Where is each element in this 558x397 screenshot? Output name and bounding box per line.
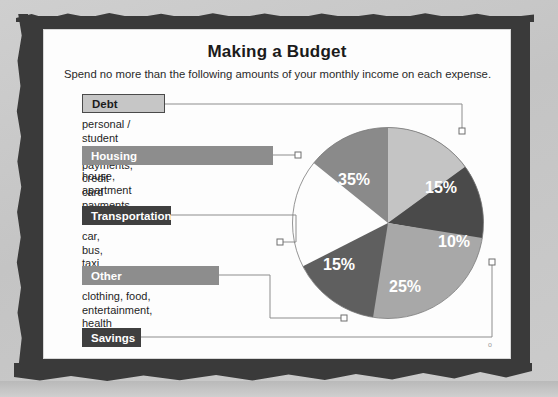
slice-label-other: 25% <box>389 278 421 295</box>
page-bottom-strip <box>0 381 558 397</box>
marker-savings <box>489 259 495 265</box>
slice-label-housing: 35% <box>338 171 370 188</box>
connector-debt <box>165 104 462 131</box>
connector-transportation <box>171 215 296 242</box>
category-label-transportation[interactable]: Transportation <box>82 206 171 225</box>
category-label-other[interactable]: Other <box>82 266 219 285</box>
category-description-transportation: car, bus, taxi <box>82 230 103 271</box>
marker-transportation <box>277 239 283 245</box>
category-label-housing[interactable]: Housing <box>82 146 273 165</box>
slice-label-savings: 10% <box>438 233 470 250</box>
category-description-housing: house, apartment <box>82 170 132 197</box>
category-description-debt: personal / student loan payments, credit… <box>82 118 133 213</box>
category-label-debt[interactable]: Debt <box>82 94 165 113</box>
corner-artifact: o <box>488 341 492 348</box>
marker-other <box>341 315 347 321</box>
slice-label-transportation: 15% <box>323 256 355 273</box>
marker-housing <box>295 152 301 158</box>
marker-debt <box>459 128 465 134</box>
category-label-savings[interactable]: Savings <box>82 328 141 347</box>
pie: 35% 15% 10% 25% 15% <box>293 127 506 332</box>
slice-label-debt: 15% <box>425 179 457 196</box>
budget-card: Making a Budget Spend no more than the f… <box>44 30 510 358</box>
